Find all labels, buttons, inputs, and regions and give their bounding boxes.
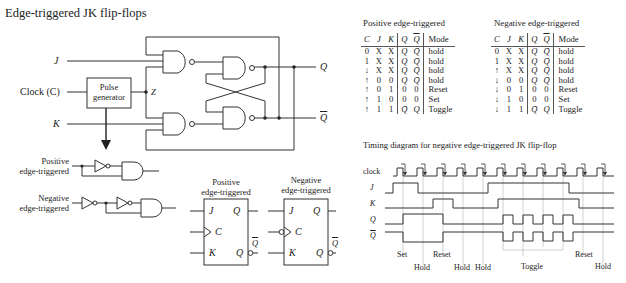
table-row: ↑11Q̄QToggle	[361, 105, 455, 115]
negative-truth-table: C J K Q Q Mode 0XXQQ̄hold 1XXQQ̄hold ↑XX…	[491, 33, 585, 114]
table-row: ↓0100Reset	[491, 85, 585, 95]
pulse-generator-label: Pulse generator	[87, 82, 131, 102]
negative-table-title: Negative edge-triggered	[494, 18, 579, 28]
latch-nand-top	[223, 57, 245, 79]
signal-label-clock: clock	[363, 167, 380, 176]
symbol-negative-title: Negative edge-triggered	[276, 175, 336, 195]
latch-nand-bottom	[223, 107, 245, 129]
table-header: C J K Q Q Mode	[361, 33, 455, 47]
symbol-positive-q-bar-outer: Q	[252, 238, 258, 248]
symbol-positive-k: K	[209, 247, 216, 258]
signal-label-q: Q	[370, 215, 376, 224]
input-clock-label: Clock (C)	[20, 86, 60, 97]
symbol-positive-q: Q	[233, 205, 240, 216]
table-row: ↓11Q̄QToggle	[491, 105, 585, 115]
positive-table-title: Positive edge-triggered	[363, 18, 445, 28]
annotation-toggle: Toggle	[521, 262, 543, 271]
positive-truth-table: C J K Q Q Mode 0XXQQ̄hold 1XXQQ̄hold ↓XX…	[361, 33, 455, 114]
q-bar-waveform	[385, 232, 614, 242]
output-q-label: Q	[320, 61, 327, 72]
symbol-negative-q-bar-outer: Q	[332, 238, 338, 248]
node-z-label: Z	[151, 87, 156, 97]
symbol-positive-title: Positive edge-triggered	[196, 177, 256, 197]
arrow-down-icon	[101, 140, 111, 150]
nand-gate-k	[163, 113, 185, 135]
signal-label-k: K	[370, 199, 375, 208]
inverter-icon	[82, 197, 93, 209]
input-k-label: K	[53, 118, 60, 129]
table-header: C J K Q Q Mode	[491, 33, 585, 47]
symbol-negative-k: K	[289, 247, 296, 258]
positive-edge-detector-label: Positive edge-triggered	[0, 156, 69, 176]
q-waveform	[385, 214, 614, 224]
annotation-hold-3: Hold	[475, 263, 491, 272]
symbol-negative-q-bar-inner: Q	[316, 247, 323, 258]
input-j-label: J	[54, 55, 58, 66]
symbol-positive-j: J	[209, 205, 213, 216]
symbol-positive-c: C	[215, 226, 222, 237]
symbol-positive-q-bar-inner: Q	[236, 247, 243, 258]
symbol-negative-q: Q	[313, 205, 320, 216]
annotation-hold-4: Hold	[595, 262, 611, 271]
k-waveform	[385, 199, 614, 208]
annotation-hold-1: Hold	[414, 263, 430, 272]
output-q-bar-label: Q	[320, 112, 327, 123]
and-gate-negative	[141, 199, 162, 217]
signal-label-q-bar: Q	[370, 231, 376, 240]
inverter-icon	[117, 197, 128, 209]
and-gate-positive	[122, 162, 143, 180]
j-waveform	[385, 183, 614, 193]
inverter-icon	[95, 160, 106, 172]
negative-edge-detector-label: Negative edge-triggered	[0, 193, 69, 213]
symbol-negative-c: C	[295, 226, 302, 237]
signal-label-j: J	[370, 183, 374, 192]
annotation-set: Set	[397, 250, 407, 259]
annotation-hold-2: Hold	[454, 263, 470, 272]
timing-diagram-title: Timing diagram for negative edge-trigger…	[363, 140, 556, 150]
annotation-reset-2: Reset	[575, 250, 593, 259]
table-row: ↑0100Reset	[361, 85, 455, 95]
annotation-reset-1: Reset	[433, 250, 451, 259]
nand-gate-j	[163, 51, 185, 73]
symbol-negative-j: J	[289, 205, 293, 216]
